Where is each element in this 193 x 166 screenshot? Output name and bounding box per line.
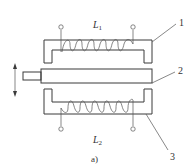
figure-caption: a) <box>91 154 98 164</box>
terminal-icon <box>131 25 135 29</box>
terminal-icon <box>131 127 135 131</box>
leader-line-1 <box>152 24 176 42</box>
upper-core <box>44 40 152 63</box>
leader-line-3 <box>146 114 168 150</box>
part-number-3: 3 <box>170 151 175 162</box>
coil-label-L2: L2 <box>92 134 103 147</box>
lower-core <box>44 89 152 114</box>
part-number-1: 1 <box>179 17 184 28</box>
differential-inductance-sensor-diagram: L1 L2 1 2 3 a) <box>0 0 193 166</box>
double-arrow-icon <box>13 63 17 97</box>
coil-label-L1: L1 <box>92 19 103 32</box>
terminal-icon <box>59 127 63 131</box>
lower-coil-L2 <box>61 99 133 126</box>
part-number-2: 2 <box>178 65 183 76</box>
armature-rod <box>23 72 41 80</box>
upper-coil-L1 <box>61 30 133 52</box>
leader-line-2 <box>152 72 175 83</box>
terminal-icon <box>59 25 63 29</box>
armature-bar <box>41 69 152 83</box>
